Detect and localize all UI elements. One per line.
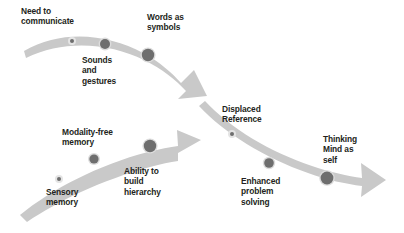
dot-ability-to-build-hierarchy <box>144 140 156 152</box>
dot-words-as-symbols <box>142 49 154 61</box>
label-sensory-memory: Sensory memory <box>46 187 78 208</box>
dot-need-to-communicate <box>70 39 74 43</box>
label-words-as-symbols: Words as symbols <box>147 12 184 33</box>
label-thinking-mind-as-self: Thinking Mind as self <box>323 134 357 165</box>
dot-sensory-memory <box>57 177 61 181</box>
dot-displaced-reference <box>230 132 234 136</box>
label-need-to-communicate: Need to communicate <box>21 6 74 27</box>
label-enhanced-problem-solving: Enhanced problem solving <box>241 176 280 207</box>
label-modality-free-memory: Modality-free memory <box>62 127 113 148</box>
dot-sounds-and-gestures <box>100 39 110 49</box>
label-displaced-reference: Displaced Reference <box>222 104 262 125</box>
label-sounds-and-gestures: Sounds and gestures <box>82 55 116 86</box>
dot-enhanced-problem-solving <box>264 158 274 168</box>
dot-thinking-mind-as-self <box>321 172 334 185</box>
label-ability-to-build-hierarchy: Ability to build hierarchy <box>124 166 161 197</box>
diagram-canvas: Need to communicate Sounds and gestures … <box>0 0 404 233</box>
dot-modality-free-memory <box>89 154 98 163</box>
